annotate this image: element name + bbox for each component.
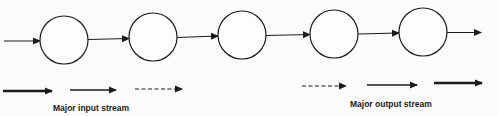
output-stream-label: Major output stream (350, 99, 432, 109)
input-stream-legend (3, 89, 182, 91)
arrow-node-2-to-3 (177, 36, 218, 38)
process-chain-diagram: Major input stream Major output stream (0, 0, 498, 116)
process-node-4 (310, 10, 358, 58)
process-node-5 (399, 8, 447, 56)
process-node-3 (218, 11, 266, 59)
process-node-1 (40, 16, 88, 64)
input-stream-label: Major input stream (53, 103, 129, 113)
process-node-2 (129, 13, 177, 61)
process-nodes (40, 8, 447, 64)
output-stream-legend (302, 83, 482, 86)
arrow-node-3-to-4 (266, 35, 310, 36)
arrow-node-1-to-2 (88, 39, 129, 40)
arrow-node-4-to-5 (358, 33, 399, 34)
